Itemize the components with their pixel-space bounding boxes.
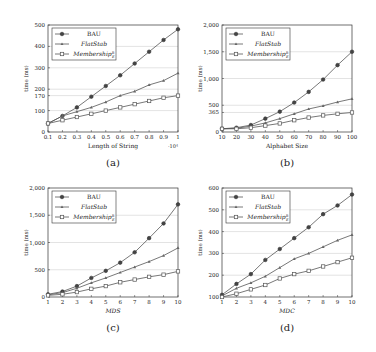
marker-circle-icon xyxy=(162,222,166,226)
x-tick-label: 0.2 xyxy=(58,134,67,140)
marker-square-icon xyxy=(119,106,122,109)
marker-square-icon xyxy=(264,283,267,286)
marker-square-icon xyxy=(133,278,136,281)
series-flatstab xyxy=(221,97,354,130)
legend-label: BAU xyxy=(261,193,275,200)
marker-square-icon xyxy=(61,119,64,122)
series-membership xyxy=(46,270,179,297)
x-tick-label: 90 xyxy=(334,134,341,140)
y-tick-label: 200 xyxy=(35,86,46,92)
x-tick-label: 8 xyxy=(321,299,325,305)
marker-square-icon xyxy=(321,114,324,117)
figure-caption: (d) xyxy=(280,322,294,333)
marker-circle-icon xyxy=(118,261,122,265)
y-tick-label: 400 xyxy=(209,229,220,235)
marker-circle-icon xyxy=(90,95,94,99)
x-tick-label: 7 xyxy=(307,299,311,305)
marker-square-icon xyxy=(307,269,310,272)
marker-circle-icon xyxy=(292,101,296,105)
legend: BAUFlatStabMembershipRE xyxy=(226,28,290,60)
x-tick-label: 0.3 xyxy=(73,134,82,140)
marker-square-icon xyxy=(235,292,238,295)
legend-label: BAU xyxy=(87,193,101,200)
marker-circle-icon xyxy=(264,258,268,262)
x-tick-label: 1 xyxy=(176,134,180,140)
y-tick-label: 170 xyxy=(35,93,46,99)
marker-circle-icon xyxy=(90,276,94,280)
series-bau xyxy=(220,50,354,131)
x-tick-label: 30 xyxy=(247,134,254,140)
marker-circle-icon xyxy=(321,212,325,216)
x-tick-label: 0.9 xyxy=(159,134,168,140)
x-tick-label: 0.6 xyxy=(116,134,125,140)
x-tick-label: 60 xyxy=(291,134,298,140)
y-tick-label: 400 xyxy=(35,43,46,49)
marker-circle-icon xyxy=(321,78,325,82)
marker-square-icon xyxy=(220,127,223,130)
marker-circle-icon xyxy=(336,63,340,67)
marker-circle-icon xyxy=(278,110,282,114)
marker-square-icon xyxy=(75,115,78,118)
marker-square-icon xyxy=(293,119,296,122)
marker-triangle-icon xyxy=(177,72,180,75)
y-axis-label: time (ms) xyxy=(23,65,29,92)
marker-square-icon xyxy=(249,126,252,129)
x-tick-label: 1 xyxy=(46,299,50,305)
marker-square-icon xyxy=(249,288,252,291)
marker-circle-icon xyxy=(234,195,238,199)
x-tick-label: 3 xyxy=(249,299,253,305)
x-tick-label: 0.1 xyxy=(44,134,53,140)
y-tick-label: 500 xyxy=(209,102,220,108)
marker-square-icon xyxy=(235,127,238,130)
figure-caption: (b) xyxy=(280,157,294,168)
x-axis-label: Alphabet Size xyxy=(265,142,308,150)
x-tick-label: 0.8 xyxy=(145,134,154,140)
y-axis-label: time (ms) xyxy=(197,229,203,256)
chart-b: 03655001,0001,5002,000102030405060708090… xyxy=(188,0,376,176)
x-tick-label: 2 xyxy=(235,299,239,305)
x-tick-label: 7 xyxy=(133,299,137,305)
marker-circle-icon xyxy=(104,84,108,88)
marker-square-icon xyxy=(176,270,179,273)
marker-circle-icon xyxy=(176,27,180,31)
x-tick-label: 5 xyxy=(278,299,282,305)
marker-square-icon xyxy=(104,284,107,287)
marker-triangle-icon xyxy=(351,233,354,236)
x-tick-label: 100 xyxy=(347,134,358,140)
marker-square-icon xyxy=(220,295,223,298)
x-tick-label: 9 xyxy=(336,299,340,305)
marker-circle-icon xyxy=(307,90,311,94)
legend: BAUFlatStabMembershipRE xyxy=(52,191,116,223)
legend-label: BAU xyxy=(261,30,275,37)
marker-square-icon xyxy=(104,109,107,112)
x-tick-label: 1 xyxy=(220,299,224,305)
marker-circle-icon xyxy=(118,73,122,77)
marker-square-icon xyxy=(234,52,237,55)
x-tick-label: 9 xyxy=(162,299,166,305)
marker-square-icon xyxy=(147,275,150,278)
marker-square-icon xyxy=(336,112,339,115)
marker-square-icon xyxy=(147,99,150,102)
y-axis-label: time (ms) xyxy=(23,229,29,256)
marker-circle-icon xyxy=(350,50,354,54)
legend-label: FlatStab xyxy=(80,40,107,47)
y-tick-label: 1,000 xyxy=(29,240,45,246)
marker-square-icon xyxy=(234,215,237,218)
x-tick-label: 4 xyxy=(90,299,94,305)
marker-square-icon xyxy=(350,256,353,259)
marker-circle-icon xyxy=(307,225,311,229)
y-axis-label: time (ms) xyxy=(197,65,203,92)
x-tick-label: 40 xyxy=(262,134,269,140)
series-flatstab xyxy=(47,246,180,296)
x-tick-label: 6 xyxy=(118,299,122,305)
marker-square-icon xyxy=(46,294,49,297)
marker-square-icon xyxy=(90,287,93,290)
marker-circle-icon xyxy=(336,204,340,208)
marker-circle-icon xyxy=(234,32,238,36)
marker-circle-icon xyxy=(278,247,282,251)
figure-caption: (a) xyxy=(106,157,120,168)
legend: BAUFlatStabMembershipRE xyxy=(52,28,116,60)
marker-square-icon xyxy=(133,102,136,105)
marker-square-icon xyxy=(60,52,63,55)
marker-square-icon xyxy=(278,277,281,280)
